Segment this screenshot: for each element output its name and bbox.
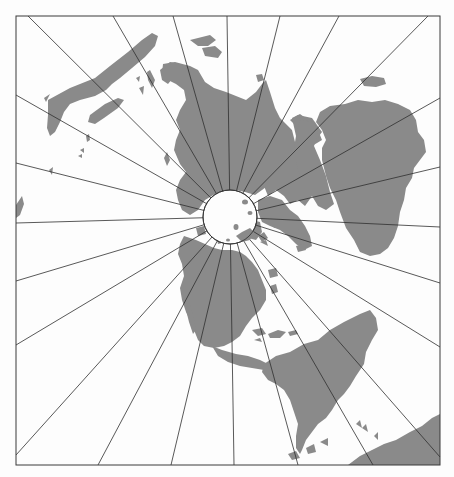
polar-map bbox=[0, 0, 454, 477]
map-canvas bbox=[0, 0, 454, 477]
